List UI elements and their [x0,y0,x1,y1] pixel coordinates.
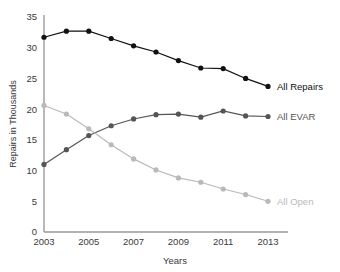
y-axis-tick-label: 10 [26,165,37,176]
chart-container: 05101520253035 200320052007200920112013 … [0,0,340,272]
series-label-all-evar: All EVAR [277,111,316,122]
series-label-all-repairs: All Repairs [277,81,323,92]
series-labels-group: All RepairsAll EVARAll Open [277,81,323,207]
y-axis-tick-label: 5 [32,196,37,207]
x-axis-tick-label: 2003 [33,236,54,247]
y-axis-tick-label: 35 [26,11,37,22]
x-axis-tick-label: 2013 [257,236,278,247]
x-axis-tick-label: 2007 [123,236,144,247]
series-line-all-repairs [44,31,268,86]
series-line-all-open [44,105,268,201]
y-axis: 05101520253035 [26,11,44,237]
x-axis-tick-label: 2009 [168,236,189,247]
y-axis-title: Repairs in Thousands [8,80,18,168]
series-label-all-open: All Open [277,196,313,207]
y-axis-tick-label: 30 [26,42,37,53]
x-axis-tick-label: 2011 [213,236,233,247]
series-line-all-evar [44,111,268,164]
line-chart-svg: 05101520253035 200320052007200920112013 … [0,0,340,272]
y-axis-tick-label: 25 [26,73,37,84]
x-axis: 200320052007200920112013 [33,232,288,247]
x-axis-tick-label: 2005 [78,236,99,247]
series-group [41,29,270,204]
x-axis-title: Years [163,255,187,266]
y-axis-tick-label: 20 [26,104,37,115]
y-axis-tick-label: 15 [26,134,37,145]
